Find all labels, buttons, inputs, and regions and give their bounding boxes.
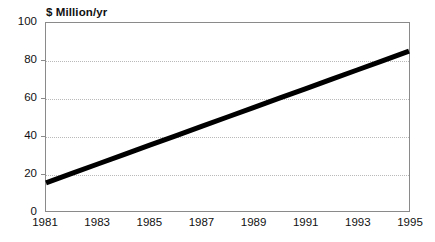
y-tick-label: 100: [18, 15, 37, 27]
x-tick-label: 1983: [84, 216, 110, 228]
x-tick-label: 1991: [293, 216, 319, 228]
x-axis: 19811983198519871989199119931995: [45, 216, 410, 236]
y-tick-label: 40: [24, 129, 37, 141]
y-tick-label: 20: [24, 167, 37, 179]
line-chart: $ Million/yr 020406080100 19811983198519…: [0, 0, 435, 242]
y-axis: 020406080100: [0, 0, 45, 242]
data-series-layer: [46, 23, 409, 211]
x-tick-label: 1987: [189, 216, 215, 228]
y-tick-label: 60: [24, 91, 37, 103]
y-axis-unit-label: $ Million/yr: [46, 6, 107, 18]
x-tick-label: 1981: [32, 216, 58, 228]
x-tick-label: 1985: [136, 216, 162, 228]
series-line-0: [46, 51, 409, 183]
y-tick-label: 80: [24, 53, 37, 65]
x-tick-label: 1995: [397, 216, 423, 228]
plot-area: [45, 22, 410, 212]
x-tick-label: 1989: [241, 216, 267, 228]
x-tick-label: 1993: [345, 216, 371, 228]
